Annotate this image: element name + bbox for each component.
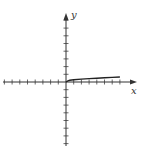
y-axis-arrow-icon: [64, 13, 69, 20]
y-axis-label: y: [70, 9, 77, 20]
x-axis-arrow-icon: [130, 80, 137, 85]
x-axis-label: x: [131, 85, 137, 96]
coordinate-graph: x y: [0, 0, 143, 152]
